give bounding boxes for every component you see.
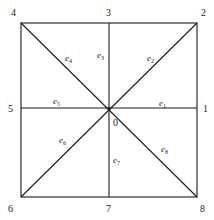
node-label-2: 2 (201, 7, 206, 18)
element-label-e3: e3 (97, 50, 104, 61)
node-label-8: 8 (200, 203, 205, 214)
node-label-0: 0 (113, 117, 118, 128)
center-node (107, 107, 110, 110)
element-label-e7: e7 (113, 155, 120, 166)
node-label-5: 5 (8, 103, 13, 114)
node-label-3: 3 (106, 7, 111, 18)
node-label-4: 4 (11, 7, 16, 18)
element-label-e8: e8 (161, 144, 168, 155)
element-label-e2: e2 (147, 53, 154, 64)
element-label-e4: e4 (65, 53, 72, 64)
element-label-e1: e1 (159, 98, 166, 109)
mesh-diagram: 4 3 2 5 1 6 7 8 0 e1 e2 e3 e4 e5 e6 e7 e… (0, 0, 214, 220)
node-label-1: 1 (203, 103, 208, 114)
node-label-6: 6 (8, 203, 13, 214)
node-label-7: 7 (106, 203, 111, 214)
element-label-e5: e5 (53, 96, 60, 107)
element-label-e6: e6 (59, 135, 66, 146)
